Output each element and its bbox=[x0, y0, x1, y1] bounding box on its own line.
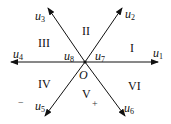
label-u4-sub: 4 bbox=[19, 53, 23, 62]
label-u8-sub: 8 bbox=[70, 55, 74, 64]
vector-diagram bbox=[0, 0, 171, 124]
origin-dot bbox=[83, 60, 86, 63]
sector-I: I bbox=[130, 42, 134, 54]
label-u6: u6 bbox=[124, 102, 134, 116]
minus-sign: − bbox=[18, 98, 24, 108]
label-u1: u1 bbox=[153, 47, 163, 61]
label-u3: u3 bbox=[35, 10, 45, 24]
label-u8: u8 bbox=[64, 50, 74, 64]
label-u7-sub: 7 bbox=[101, 55, 105, 64]
label-u3-sub: 3 bbox=[41, 15, 45, 24]
origin-label: O bbox=[79, 69, 88, 81]
label-u5: u5 bbox=[35, 100, 45, 114]
label-u2-sub: 2 bbox=[131, 13, 135, 22]
origin-label-text: O bbox=[79, 68, 88, 82]
vector-u6 bbox=[85, 62, 125, 116]
sector-V: V bbox=[82, 88, 91, 100]
sector-VI: VI bbox=[128, 80, 141, 92]
label-u2: u2 bbox=[125, 8, 135, 22]
plus-sign: + bbox=[92, 99, 98, 109]
label-u6-sub: 6 bbox=[130, 107, 134, 116]
sector-II: II bbox=[82, 25, 90, 37]
sector-IV: IV bbox=[38, 78, 51, 90]
label-u4: u4 bbox=[13, 48, 23, 62]
label-u5-sub: 5 bbox=[41, 105, 45, 114]
label-u7: u7 bbox=[95, 50, 105, 64]
sector-III: III bbox=[38, 37, 50, 49]
label-u1-sub: 1 bbox=[159, 52, 163, 61]
